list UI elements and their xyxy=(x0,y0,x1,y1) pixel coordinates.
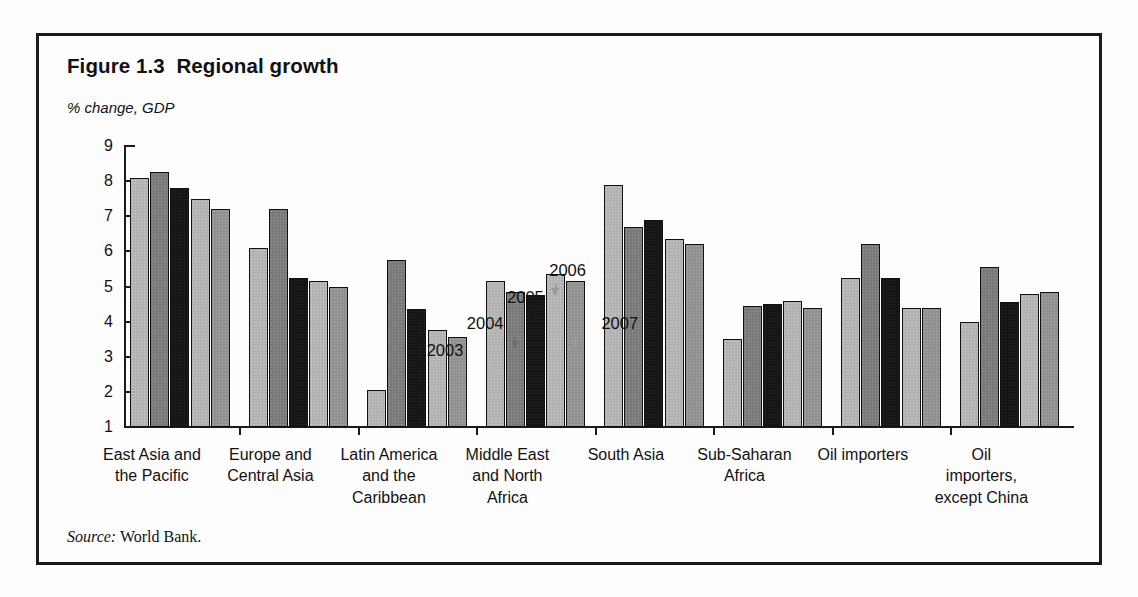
year-annotation-label: 2006 xyxy=(549,261,586,280)
y-axis-tick-label: 2 xyxy=(67,384,113,400)
x-axis-tick xyxy=(358,426,360,435)
arrow-head-icon xyxy=(551,288,559,296)
category-label: Latin America and the Caribbean xyxy=(340,444,437,508)
bar xyxy=(191,199,210,427)
y-axis-tick-label: 1 xyxy=(67,419,113,435)
bar xyxy=(644,220,663,427)
arrow-head-icon xyxy=(531,315,539,323)
bar-group xyxy=(367,136,471,427)
bar xyxy=(841,278,860,427)
bar xyxy=(980,267,999,427)
bar xyxy=(723,339,742,427)
arrow-head-icon xyxy=(571,341,579,349)
bar xyxy=(211,209,230,427)
y-axis-tick-label: 6 xyxy=(67,243,113,259)
bar xyxy=(289,278,308,427)
bar xyxy=(367,390,386,427)
bar-group xyxy=(841,136,945,427)
bar xyxy=(546,274,565,427)
figure-title: Figure 1.3 Regional growth xyxy=(67,54,339,78)
category-label: East Asia and the Pacific xyxy=(103,444,201,487)
y-axis-tick-label: 7 xyxy=(67,208,113,224)
figure-panel: Figure 1.3 Regional growth % change, GDP… xyxy=(36,33,1102,565)
bar xyxy=(329,287,348,428)
x-axis-tick xyxy=(832,426,834,435)
bar xyxy=(861,244,880,427)
year-annotation-arrow xyxy=(510,337,520,349)
x-axis-tick xyxy=(950,426,952,435)
y-axis-unit-label: % change, GDP xyxy=(67,99,175,116)
bar xyxy=(665,239,684,427)
source-prefix: Source: xyxy=(67,528,116,545)
bar xyxy=(130,178,149,427)
year-annotation-arrow xyxy=(530,311,540,323)
x-axis-tick xyxy=(595,426,597,435)
bar-group xyxy=(486,136,590,427)
arrow-head-icon xyxy=(491,368,499,376)
x-axis-tick xyxy=(239,426,241,435)
bar xyxy=(1020,294,1039,427)
bar xyxy=(803,308,822,427)
category-labels: East Asia and the PacificEurope and Cent… xyxy=(126,444,1076,524)
bar xyxy=(743,306,762,427)
bar xyxy=(881,278,900,427)
x-axis-tick xyxy=(713,426,715,435)
category-label: Europe and Central Asia xyxy=(227,444,313,487)
bar xyxy=(685,244,704,427)
y-axis-tick-label: 5 xyxy=(67,279,113,295)
category-label: South Asia xyxy=(588,444,665,465)
chart-plot-area: 123456789 20032004200520062007 xyxy=(67,136,1077,436)
bar xyxy=(922,308,941,427)
bar xyxy=(506,292,525,427)
source-note: Source: World Bank. xyxy=(67,528,201,546)
year-annotation-arrow xyxy=(551,284,561,296)
category-label: Oil importers xyxy=(818,444,909,465)
bar-group xyxy=(249,136,353,427)
y-axis-tick-label: 8 xyxy=(67,173,113,189)
source-text: World Bank. xyxy=(116,528,201,545)
y-axis-tick-label: 9 xyxy=(67,138,113,154)
bar xyxy=(309,281,328,427)
bar xyxy=(783,301,802,427)
bar-group xyxy=(130,136,234,427)
bar-group xyxy=(604,136,708,427)
bar xyxy=(170,188,189,427)
year-annotation-arrow xyxy=(490,364,500,376)
bar-group xyxy=(723,136,827,427)
category-label: Oil importers, except China xyxy=(934,444,1029,508)
year-annotation-label: 2007 xyxy=(601,314,638,333)
bar xyxy=(902,308,921,427)
bar xyxy=(407,309,426,427)
bars-area xyxy=(126,136,1074,427)
year-annotation-label: 2003 xyxy=(427,341,464,360)
category-label: Sub-Saharan Africa xyxy=(697,444,791,487)
year-annotation-label: 2005 xyxy=(507,288,544,307)
year-annotation-arrow xyxy=(571,337,581,349)
bar xyxy=(1000,302,1019,427)
bar xyxy=(387,260,406,427)
arrow-head-icon xyxy=(511,341,519,349)
bar xyxy=(604,185,623,427)
bar xyxy=(150,172,169,427)
bar xyxy=(566,281,585,427)
bar-group xyxy=(960,136,1064,427)
bar xyxy=(960,322,979,427)
bar xyxy=(249,248,268,427)
category-label: Middle East and North Africa xyxy=(466,444,550,508)
screenshot-page: Figure 1.3 Regional growth % change, GDP… xyxy=(0,0,1138,597)
y-axis-tick-label: 4 xyxy=(67,314,113,330)
year-annotation-label: 2004 xyxy=(467,314,504,333)
y-axis-tick-label: 3 xyxy=(67,349,113,365)
bar xyxy=(763,304,782,427)
bar xyxy=(1040,292,1059,427)
bar xyxy=(486,281,505,427)
x-axis-tick xyxy=(476,426,478,435)
bar xyxy=(269,209,288,427)
